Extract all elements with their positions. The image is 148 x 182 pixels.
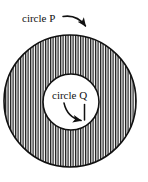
circle-p-label: circle P	[22, 12, 55, 24]
arrow-to-circle-p	[63, 16, 86, 26]
circle-q-label: circle Q	[52, 89, 87, 101]
geometry-diagram: circle P circle Q	[0, 0, 148, 182]
diagram-canvas: circle P circle Q	[0, 0, 148, 182]
circle-q-shape	[43, 74, 99, 130]
